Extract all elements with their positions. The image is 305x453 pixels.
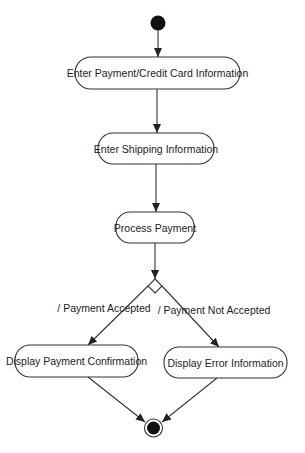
activity-process-payment: Process Payment <box>114 212 196 243</box>
guard-label-accepted: / Payment Accepted <box>57 302 151 314</box>
activity-label: Display Error Information <box>167 357 283 369</box>
edge-confirmation-to-end <box>88 377 145 422</box>
activity-enter-shipping: Enter Shipping Information <box>94 133 218 164</box>
activity-display-error: Display Error Information <box>164 347 287 378</box>
final-node <box>145 419 163 437</box>
activity-label: Display Payment Confirmation <box>6 355 147 367</box>
activity-display-confirmation: Display Payment Confirmation <box>6 345 147 377</box>
decision-node <box>148 279 162 293</box>
initial-node <box>151 16 166 31</box>
activity-label: Process Payment <box>114 222 196 234</box>
edge-decision-to-confirmation <box>88 286 148 345</box>
activity-label: Enter Shipping Information <box>94 143 218 155</box>
activity-label: Enter Payment/Credit Card Information <box>67 67 249 79</box>
guard-label-not-accepted: / Payment Not Accepted <box>158 304 271 316</box>
edge-error-to-end <box>162 378 217 422</box>
edge-decision-to-error <box>162 286 219 347</box>
activity-diagram: Enter Payment/Credit Card Information En… <box>0 0 305 453</box>
activity-enter-payment: Enter Payment/Credit Card Information <box>67 57 249 89</box>
